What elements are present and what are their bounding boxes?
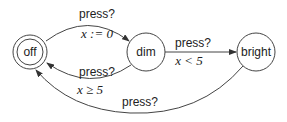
edge-dim-off-action: press? (79, 65, 115, 79)
edge-dim-bright-guard: x < 5 (174, 53, 203, 68)
edge-dim-bright-action: press? (175, 36, 211, 50)
state-dim-label: dim (136, 45, 155, 59)
edge-bright-off-action: press? (122, 95, 158, 109)
edge-dim-off-guard: x ≥ 5 (76, 82, 103, 97)
edge-off-dim-update: x := 0 (80, 26, 113, 41)
state-off-label: off (23, 45, 37, 59)
state-off: off (13, 35, 47, 69)
state-dim: dim (127, 33, 165, 71)
edge-off-dim-action: press? (79, 7, 115, 21)
automaton-diagram: off dim bright press? x := 0 press? x ≥ … (0, 0, 287, 122)
state-bright: bright (237, 33, 275, 71)
state-bright-label: bright (241, 45, 272, 59)
